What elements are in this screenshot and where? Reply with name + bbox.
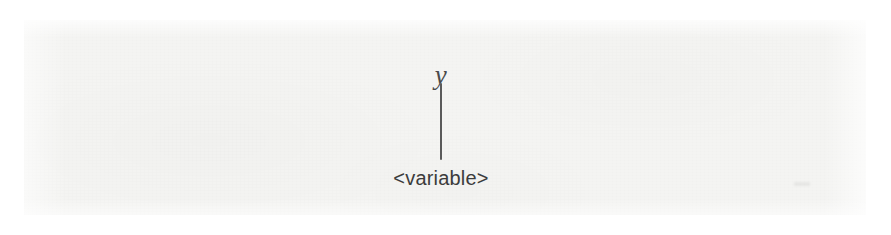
parse-tree-fragment: y <variable>	[24, 20, 866, 215]
scanned-page-region: y <variable>	[24, 20, 866, 215]
page-canvas: y <variable>	[0, 0, 891, 235]
tree-edge-connector	[440, 83, 442, 160]
terminal-symbol-y: y	[24, 62, 862, 89]
nonterminal-label-variable: <variable>	[24, 168, 862, 188]
